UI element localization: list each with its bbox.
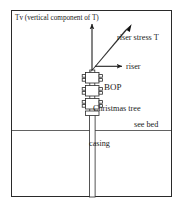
- label-bop: BOP: [104, 83, 122, 92]
- label-tv-vertical-component: Tv (vertical component of T): [15, 15, 99, 22]
- label-riser: riser: [126, 63, 141, 71]
- bop-block-2: [82, 86, 102, 97]
- bop-block-1: [82, 73, 102, 84]
- label-christmas-tree: Christmas tree: [93, 105, 141, 113]
- casing-pipe: [90, 112, 96, 197]
- figure-container: Tv (vertical component of T) riser stres…: [0, 0, 184, 208]
- label-casing: casing: [89, 140, 110, 148]
- label-sea-bed: see bed: [134, 121, 158, 129]
- diagram-drawing: [0, 0, 184, 208]
- label-riser-stress-t: riser stress T: [117, 34, 159, 42]
